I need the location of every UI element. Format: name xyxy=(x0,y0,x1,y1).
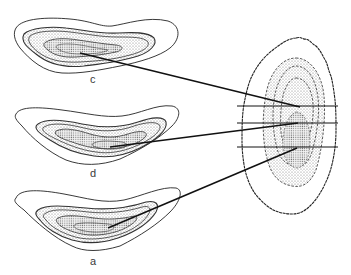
diagram-canvas: c d a xyxy=(0,0,351,275)
section-label-c: c xyxy=(90,74,96,85)
section-a xyxy=(15,188,180,251)
section-label-d: d xyxy=(90,168,96,179)
section-c xyxy=(14,18,178,73)
section-label-a: a xyxy=(90,256,96,267)
reference-organ xyxy=(242,37,336,214)
diagram-svg xyxy=(0,0,351,275)
section-d xyxy=(15,106,179,165)
